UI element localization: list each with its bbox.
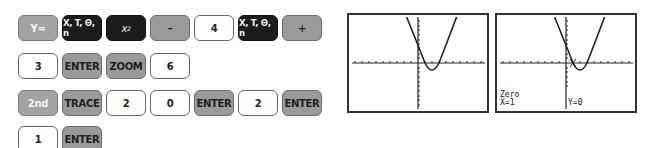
key-enter[interactable]: ENTER <box>282 90 322 116</box>
key-x-t-theta-n[interactable]: X, T, Θ, n <box>238 15 278 41</box>
key-row-2: 3 ENTER ZOOM 6 <box>18 53 190 79</box>
key-2[interactable]: 2 <box>238 90 278 116</box>
key-2nd[interactable]: 2nd <box>18 90 58 116</box>
key-6[interactable]: 6 <box>150 53 190 79</box>
key-x-squared-exponent: 2 <box>127 25 131 32</box>
key-4[interactable]: 4 <box>194 15 234 41</box>
key-x-squared[interactable]: x2 <box>106 15 146 41</box>
key-trace[interactable]: TRACE <box>62 90 102 116</box>
key-minus[interactable]: – <box>150 15 190 41</box>
zero-result-screen: Zero X=1 Y=0 <box>495 13 637 113</box>
key-plus[interactable]: + <box>282 15 322 41</box>
key-y-equals[interactable]: Y= <box>18 15 58 41</box>
keystroke-sequence: Y= X, T, Θ, n x2 – 4 X, T, Θ, n + 3 ENTE… <box>0 0 340 148</box>
key-0[interactable]: 0 <box>150 90 190 116</box>
key-row-3: 2nd TRACE 2 0 ENTER 2 ENTER <box>18 90 322 116</box>
key-3[interactable]: 3 <box>18 53 58 79</box>
key-1[interactable]: 1 <box>18 126 58 148</box>
key-x-t-theta-n[interactable]: X, T, Θ, n <box>62 15 102 41</box>
key-2[interactable]: 2 <box>106 90 146 116</box>
parabola-graph <box>349 15 487 111</box>
key-enter[interactable]: ENTER <box>62 53 102 79</box>
key-enter[interactable]: ENTER <box>62 126 102 148</box>
y-value: Y=0 <box>568 99 582 107</box>
key-enter[interactable]: ENTER <box>194 90 234 116</box>
key-row-4: 1 ENTER <box>18 126 102 148</box>
x-value: X=1 <box>500 99 514 107</box>
key-row-1: Y= X, T, Θ, n x2 – 4 X, T, Θ, n + <box>18 15 322 41</box>
graph-screen <box>347 13 489 113</box>
key-zoom[interactable]: ZOOM <box>106 53 146 79</box>
